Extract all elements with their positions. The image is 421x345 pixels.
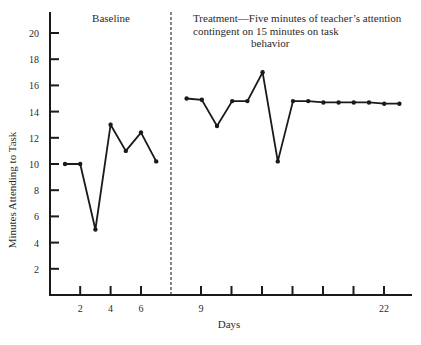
data-point bbox=[200, 98, 204, 102]
data-point bbox=[154, 159, 158, 163]
data-point bbox=[352, 100, 356, 104]
y-tick-label: 10 bbox=[29, 159, 39, 170]
y-tick-label: 18 bbox=[29, 54, 39, 65]
x-tick-label: 9 bbox=[199, 303, 204, 314]
y-tick-label: 16 bbox=[29, 80, 39, 91]
y-tick-label: 14 bbox=[29, 107, 39, 118]
x-tick-label: 22 bbox=[379, 303, 389, 314]
y-tick-label: 12 bbox=[29, 133, 39, 144]
x-tick-label: 2 bbox=[78, 303, 83, 314]
y-tick-label: 4 bbox=[34, 238, 39, 249]
x-axis-label: Days bbox=[218, 318, 241, 330]
data-point bbox=[184, 96, 188, 100]
data-point bbox=[215, 124, 219, 128]
data-point bbox=[230, 99, 234, 103]
y-tick-label: 20 bbox=[29, 28, 39, 39]
data-point bbox=[291, 99, 295, 103]
data-point bbox=[63, 162, 67, 166]
y-axis-label: Minutes Attending to Task bbox=[6, 131, 18, 248]
data-point bbox=[397, 102, 401, 106]
series-line-baseline bbox=[65, 125, 156, 230]
data-point bbox=[93, 227, 97, 231]
series-line-treatment bbox=[187, 72, 400, 161]
data-point bbox=[108, 123, 112, 127]
data-point bbox=[260, 70, 264, 74]
data-point bbox=[321, 100, 325, 104]
data-point bbox=[276, 159, 280, 163]
data-point bbox=[336, 100, 340, 104]
x-tick-label: 6 bbox=[139, 303, 144, 314]
baseline-label: Baseline bbox=[92, 12, 130, 24]
y-axis-ticks: 2468101214161820 bbox=[29, 28, 59, 275]
data-point bbox=[306, 99, 310, 103]
data-point bbox=[124, 149, 128, 153]
data-point bbox=[367, 100, 371, 104]
line-chart: 2468101214161820 246922 Baseline Treatme… bbox=[0, 0, 421, 345]
treatment-label-line1: Treatment—Five minutes of teacher’s atte… bbox=[193, 12, 402, 24]
axes bbox=[49, 12, 412, 296]
data-point bbox=[382, 102, 386, 106]
data-point bbox=[245, 99, 249, 103]
data-point bbox=[78, 162, 82, 166]
y-tick-label: 6 bbox=[34, 211, 39, 222]
x-axis-ticks: 246922 bbox=[78, 286, 389, 314]
treatment-label-line2: contingent on 15 minutes on task bbox=[193, 25, 339, 37]
data-point bbox=[139, 130, 143, 134]
data-series bbox=[63, 70, 402, 232]
x-tick-label: 4 bbox=[108, 303, 113, 314]
treatment-label-line3: behavior bbox=[251, 37, 290, 49]
y-tick-label: 8 bbox=[34, 185, 39, 196]
y-tick-label: 2 bbox=[34, 264, 39, 275]
